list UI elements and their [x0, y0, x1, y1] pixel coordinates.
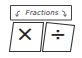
divide-card[interactable]: ÷: [47, 23, 69, 45]
multiply-card[interactable]: ×: [14, 23, 36, 45]
fractions-widget[interactable]: Fractions × ÷: [0, 0, 82, 58]
widget-title: Fractions: [20, 9, 64, 18]
